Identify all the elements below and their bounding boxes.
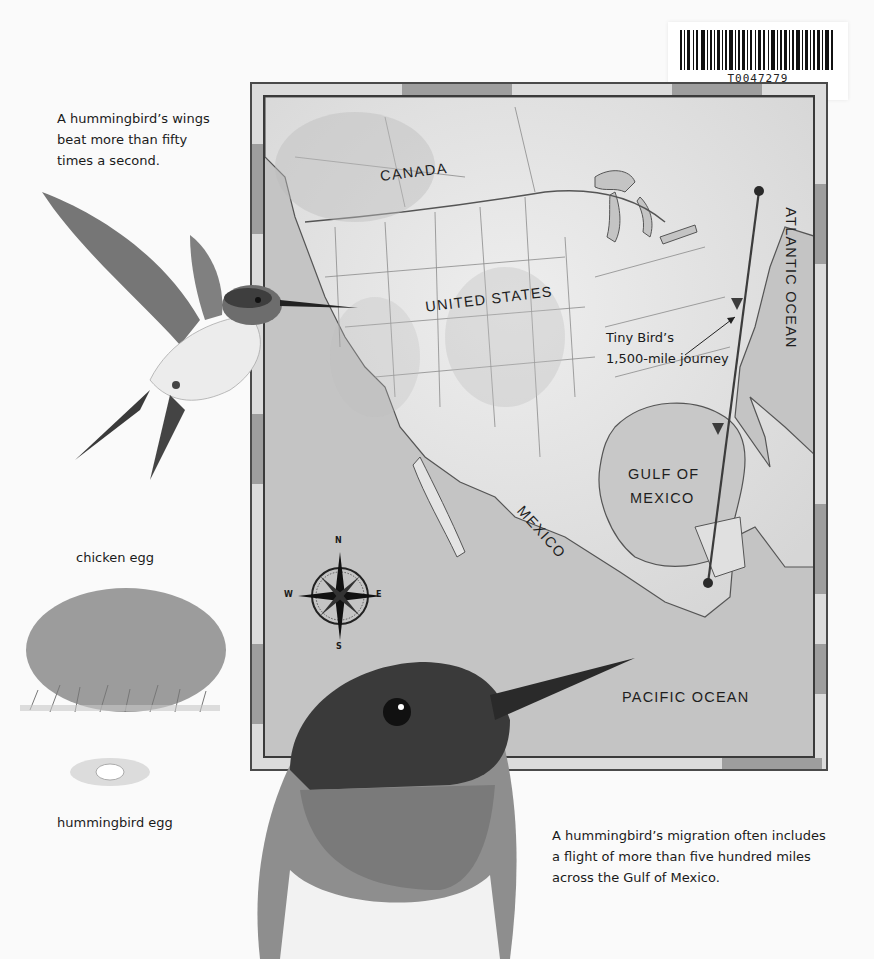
hummingbird-portrait-illustration [220, 650, 640, 959]
wings-caption: A hummingbird’s wings beat more than fif… [57, 108, 210, 171]
route-arrow-icon [712, 423, 724, 435]
journey-annotation: Tiny Bird’s 1,500-mile journey [606, 327, 729, 369]
barcode-icon [680, 30, 836, 70]
label-atlantic-ocean: ATLANTIC OCEAN [783, 193, 799, 363]
chicken-egg-illustration [20, 585, 230, 725]
label-gulf-line2: MEXICO [630, 490, 694, 506]
migration-caption: A hummingbird’s migration often includes… [552, 825, 826, 888]
route-start-dot [754, 186, 764, 196]
hummingbird-egg-illustration [65, 750, 155, 790]
route-arrow-icon [731, 298, 743, 310]
route-end-dot [703, 578, 713, 588]
compass-rose-icon: N S E W [290, 540, 390, 650]
chicken-egg-label: chicken egg [76, 547, 154, 568]
label-gulf-line1: GULF OF [628, 466, 699, 482]
label-pacific-ocean: PACIFIC OCEAN [622, 689, 749, 705]
hummingbird-egg-label: hummingbird egg [57, 812, 173, 833]
flying-hummingbird-illustration [30, 180, 370, 490]
